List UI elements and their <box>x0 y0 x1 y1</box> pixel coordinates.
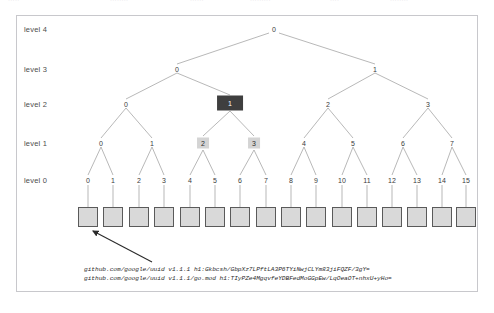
top-strip-fragment: ······ <box>190 0 204 3</box>
leaf-box-10[interactable] <box>332 207 352 227</box>
tree-leaf-label-14[interactable]: 14 <box>438 177 446 184</box>
tree-leaf-label-12[interactable]: 12 <box>388 177 396 184</box>
tree-leaf-label-3[interactable]: 3 <box>162 177 166 184</box>
leaf-box-15[interactable] <box>456 207 476 227</box>
leaf-box-0[interactable] <box>78 207 98 227</box>
tree-node-l1-2[interactable]: 2 <box>197 138 209 149</box>
tree-node-l1-1[interactable]: 1 <box>150 140 154 147</box>
gosum-line-0: github.com/google/uuid v1.1.1 h1:Gkbcsh/… <box>84 266 370 273</box>
tree-node-l1-0[interactable]: 0 <box>99 140 103 147</box>
leaf-box-11[interactable] <box>357 207 377 227</box>
tree-leaf-label-10[interactable]: 10 <box>338 177 346 184</box>
tree-node-l1-5[interactable]: 5 <box>351 140 355 147</box>
merkle-tree-panel <box>16 15 478 292</box>
tree-node-l2-2[interactable]: 2 <box>326 101 330 108</box>
leaf-box-9[interactable] <box>306 207 326 227</box>
tree-node-l1-7[interactable]: 7 <box>450 140 454 147</box>
tree-leaf-label-13[interactable]: 13 <box>413 177 421 184</box>
top-strip-fragment: ···· <box>330 0 339 3</box>
tree-leaf-label-0[interactable]: 0 <box>86 177 90 184</box>
tree-leaf-label-7[interactable]: 7 <box>264 177 268 184</box>
tree-leaf-label-9[interactable]: 9 <box>314 177 318 184</box>
leaf-box-12[interactable] <box>382 207 402 227</box>
top-strip-fragment: ········ <box>390 0 408 3</box>
tree-leaf-label-6[interactable]: 6 <box>238 177 242 184</box>
tree-leaf-label-8[interactable]: 8 <box>289 177 293 184</box>
level-label-3: level 1 <box>24 139 47 148</box>
leaf-box-2[interactable] <box>129 207 149 227</box>
top-strip-fragment: ········· <box>250 0 271 3</box>
tree-leaf-label-2[interactable]: 2 <box>137 177 141 184</box>
level-label-0: level 4 <box>24 25 47 34</box>
top-cut-off-text-strip: ········································ <box>0 0 494 10</box>
leaf-box-5[interactable] <box>205 207 225 227</box>
leaf-box-8[interactable] <box>281 207 301 227</box>
tree-node-l4-0[interactable]: 0 <box>272 26 276 33</box>
leaf-box-1[interactable] <box>103 207 123 227</box>
tree-leaf-label-5[interactable]: 5 <box>213 177 217 184</box>
level-label-2: level 2 <box>24 100 47 109</box>
tree-leaf-label-4[interactable]: 4 <box>188 177 192 184</box>
diagram-canvas: ········································… <box>0 0 494 313</box>
tree-node-l1-6[interactable]: 6 <box>401 140 405 147</box>
leaf-box-4[interactable] <box>180 207 200 227</box>
leaf-box-13[interactable] <box>407 207 427 227</box>
tree-node-l2-0[interactable]: 0 <box>124 101 128 108</box>
tree-node-l3-1[interactable]: 1 <box>373 66 377 73</box>
level-label-1: level 3 <box>24 65 47 74</box>
leaf-box-14[interactable] <box>432 207 452 227</box>
tree-leaf-label-15[interactable]: 15 <box>462 177 470 184</box>
tree-leaf-label-11[interactable]: 11 <box>363 177 370 184</box>
leaf-box-7[interactable] <box>256 207 276 227</box>
top-strip-fragment: ········ <box>110 0 128 3</box>
tree-node-l3-0[interactable]: 0 <box>175 66 179 73</box>
leaf-box-3[interactable] <box>154 207 174 227</box>
tree-leaf-label-1[interactable]: 1 <box>111 177 115 184</box>
leaf-box-6[interactable] <box>230 207 250 227</box>
tree-node-l2-1[interactable]: 1 <box>217 96 243 111</box>
tree-node-l1-4[interactable]: 4 <box>302 140 306 147</box>
gosum-line-1: github.com/google/uuid v1.1.1/go.mod h1:… <box>84 275 392 282</box>
tree-node-l1-3[interactable]: 3 <box>248 138 260 149</box>
tree-node-l2-3[interactable]: 3 <box>426 101 430 108</box>
level-label-4: level 0 <box>24 176 47 185</box>
top-strip-fragment: ····· <box>8 0 20 3</box>
